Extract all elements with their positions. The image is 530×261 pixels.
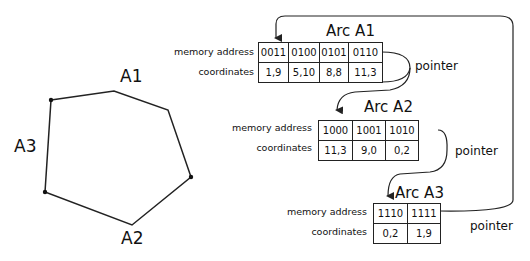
arc-a3-address-label: memory address: [285, 206, 367, 217]
arc-a1-address-label: memory address: [172, 46, 254, 57]
arc-a2-table: 1000 1001 1010 11,3 9,0 0,2: [318, 120, 419, 161]
vertex-dot: [49, 98, 53, 102]
pointer-label-a3: pointer: [470, 219, 513, 233]
coordinate-cell: 11,3: [349, 63, 383, 83]
coordinates-row: 1,9 5,10 8,8 11,3: [259, 63, 383, 83]
polygon-label-a2: A2: [121, 228, 143, 248]
coordinate-cell: 9,0: [353, 141, 386, 161]
coordinate-cell: 0,2: [374, 224, 408, 244]
polygon-label-a3: A3: [14, 136, 36, 156]
coordinates-row: 0,2 1,9: [374, 224, 441, 244]
polygon-shape: [43, 91, 193, 225]
arc-a2-title: Arc A2: [364, 98, 413, 116]
pointer-label-a2: pointer: [455, 144, 498, 158]
coordinate-cell: 0,2: [386, 141, 419, 161]
address-cell: 1111: [408, 204, 441, 224]
arc-a2-coords-label: coordinates: [230, 142, 312, 153]
address-cell: 1001: [353, 121, 386, 141]
coordinate-cell: 1,9: [259, 63, 289, 83]
arc-a1-coords-label: coordinates: [172, 66, 254, 77]
coordinate-cell: 8,8: [320, 63, 349, 83]
arc-a1-table: 0011 0100 0101 0110 1,9 5,10 8,8 11,3: [258, 42, 383, 83]
address-cell: 0011: [259, 43, 289, 63]
coordinate-cell: 11,3: [319, 141, 353, 161]
coordinate-cell: 1,9: [408, 224, 441, 244]
pointer-label-a1: pointer: [415, 59, 458, 73]
address-cell: 1010: [386, 121, 419, 141]
address-cell: 0100: [289, 43, 320, 63]
address-cell: 1000: [319, 121, 353, 141]
vertex-dot: [189, 175, 193, 179]
address-cell: 0110: [349, 43, 383, 63]
arc-a3-coords-label: coordinates: [285, 226, 367, 237]
address-cell: 0101: [320, 43, 349, 63]
coordinate-cell: 5,10: [289, 63, 320, 83]
vertex-dot: [43, 190, 47, 194]
polygon-label-a1: A1: [120, 66, 142, 86]
arc-a3-title: Arc A3: [395, 184, 444, 202]
coordinates-row: 11,3 9,0 0,2: [319, 141, 419, 161]
address-row: 1110 1111: [374, 204, 441, 224]
arc-a2-address-label: memory address: [230, 122, 312, 133]
address-cell: 1110: [374, 204, 408, 224]
address-row: 1000 1001 1010: [319, 121, 419, 141]
arc-a3-table: 1110 1111 0,2 1,9: [373, 203, 441, 244]
arc-a1-title: Arc A1: [326, 22, 375, 40]
address-row: 0011 0100 0101 0110: [259, 43, 383, 63]
